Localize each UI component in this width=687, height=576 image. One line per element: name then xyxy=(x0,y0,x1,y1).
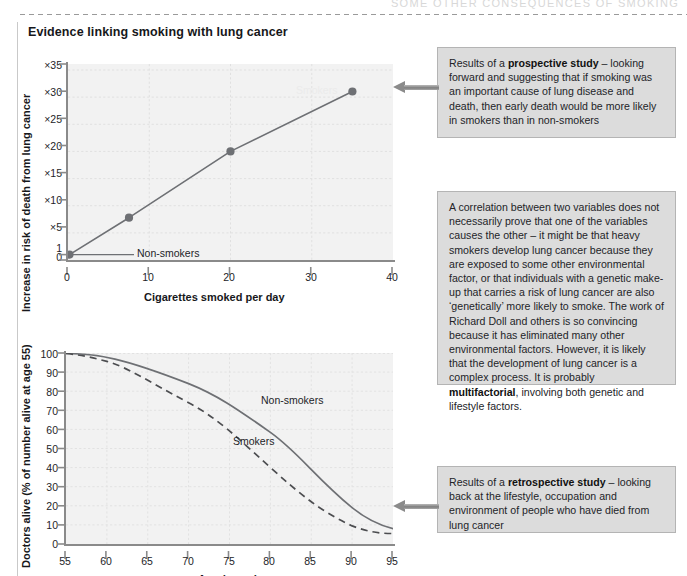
arrow-to-chart2 xyxy=(393,500,439,512)
chart1-ytick-marks xyxy=(59,62,67,262)
chart2-xtick-60: 60 xyxy=(91,555,121,567)
callout-correlation-note: A correlation between two variables does… xyxy=(437,191,676,385)
callout-prospective-study: Results of a prospective study – looking… xyxy=(437,47,676,138)
chart2-ytick-80: 80 xyxy=(24,386,58,398)
chart2-label-smokers: Smokers xyxy=(233,435,274,447)
callout-correlation-text: A correlation between two variables does… xyxy=(449,201,664,412)
chart2-xtick-95: 95 xyxy=(377,555,407,567)
chart1-label-non-smokers: Non-smokers xyxy=(137,247,199,259)
chart2-xtick-90: 90 xyxy=(336,555,366,567)
chart2-xtick-85: 85 xyxy=(295,555,325,567)
chart1-plot-area xyxy=(68,64,393,260)
chart2-xtick-65: 65 xyxy=(132,555,162,567)
running-head: SOME OTHER CONSEQUENCES OF SMOKING xyxy=(391,0,679,9)
callout-retrospective-study: Results of a retrospective study – looki… xyxy=(437,466,676,533)
chart2-xtick-55: 55 xyxy=(50,555,80,567)
chart2-label-non-smokers: Non-smokers xyxy=(261,394,323,406)
chart2-xtick-70: 70 xyxy=(173,555,203,567)
chart1-xtick-marks xyxy=(66,261,396,269)
chart2-ytick-0: 0 xyxy=(24,538,58,550)
page-title: Evidence linking smoking with lung cance… xyxy=(28,25,288,39)
chart2-ytick-100: 100 xyxy=(24,348,58,360)
dotted-rule-divider xyxy=(18,13,687,16)
chart1-ytick-25: ×25 xyxy=(26,113,62,125)
callout-prospective-text: Results of a prospective study – looking… xyxy=(449,57,656,126)
chart2-plot-area xyxy=(66,353,393,544)
chart1-ytick-15: ×15 xyxy=(26,167,62,179)
chart2-ytick-10: 10 xyxy=(24,519,58,531)
chart2-xtick-75: 75 xyxy=(214,555,244,567)
chart1-xtick-10: 10 xyxy=(133,271,163,283)
chart2-ytick-marks xyxy=(57,351,65,546)
arrow-shaft xyxy=(404,504,439,509)
chart2-xtick-marks xyxy=(64,545,396,553)
chart2-ytick-90: 90 xyxy=(24,367,58,379)
chart1-xtick-30: 30 xyxy=(296,271,326,283)
chart2-xtick-80: 80 xyxy=(254,555,284,567)
chart1-ytick-20: ×20 xyxy=(26,140,62,152)
arrow-to-chart1 xyxy=(393,81,439,93)
chart1-xtick-0: 0 xyxy=(52,271,82,283)
chart1-ytick-10: ×10 xyxy=(26,194,62,206)
textbook-page: SOME OTHER CONSEQUENCES OF SMOKING Evide… xyxy=(0,0,687,576)
chart-doctors-alive-vs-age: Doctors alive (% of number alive at age … xyxy=(0,340,420,576)
chart2-ytick-70: 70 xyxy=(24,405,58,417)
callout-retrospective-text: Results of a retrospective study – looki… xyxy=(449,476,651,531)
chart1-xtick-20: 20 xyxy=(214,271,244,283)
chart1-ytick-5: ×5 xyxy=(26,221,62,233)
chart2-ytick-50: 50 xyxy=(24,443,58,455)
chart1-ytick-0: 0 xyxy=(26,251,62,263)
chart1-ytick-35: ×35 xyxy=(26,59,62,71)
chart1-x-axis-title: Cigarettes smoked per day xyxy=(144,291,285,303)
chart2-ytick-20: 20 xyxy=(24,500,58,512)
chart2-ytick-60: 60 xyxy=(24,424,58,436)
chart2-ytick-40: 40 xyxy=(24,462,58,474)
chart1-label-smokers: Smokers xyxy=(296,84,337,96)
arrow-shaft xyxy=(404,85,439,90)
chart-risk-vs-cigarettes: Increase in risk of death from lung canc… xyxy=(0,40,420,340)
chart1-ytick-30: ×30 xyxy=(26,86,62,98)
chart2-ytick-30: 30 xyxy=(24,481,58,493)
chart1-xtick-40: 40 xyxy=(377,271,407,283)
